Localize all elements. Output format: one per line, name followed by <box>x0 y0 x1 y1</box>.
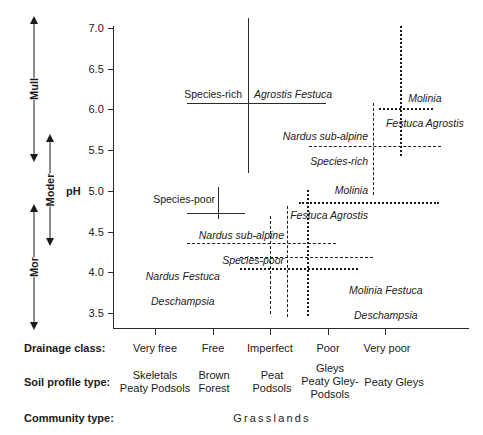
arrow-head-down-icon <box>30 154 38 162</box>
plot-label-line2: Deschampsia <box>354 309 418 321</box>
plot-label-line1: Nardus sub-alpine <box>199 229 284 241</box>
plot-label-line1: Nardus Festuca <box>146 270 220 282</box>
plot-label-nardus-sub-alpine-species-rich: Nardus sub-alpine Species-rich <box>222 118 368 180</box>
y-tick <box>108 69 113 70</box>
plot-label-line2: Species-rich <box>310 155 368 167</box>
plot-label-line1: Nardus sub-alpine <box>283 130 368 142</box>
y-tick <box>108 109 113 110</box>
x-tick <box>270 329 271 335</box>
plot-label-molinia-festuca-deschampsia: Molinia Festuca Deschampsia <box>310 272 450 334</box>
plot-label-species-poor: Species-poor <box>133 193 215 205</box>
series-line-species-poor-horizontal <box>187 213 245 214</box>
arrow-head-down-icon <box>46 238 54 246</box>
y-tick-label: 4.5 <box>68 226 104 238</box>
soil-profile-cell: Peaty Gleys <box>356 376 432 389</box>
row-title-soil-profile-type: Soil profile type: <box>24 376 110 388</box>
series-line-molinia-festuca-deschampsia-horizontal <box>240 257 373 258</box>
plot-label-line2: Festuca Agrostis <box>290 209 368 221</box>
plot-label-line1: Molinia <box>335 184 368 196</box>
plot-label-molinia-festuca-agrostis-upper: Molinia Festuca Agrostis <box>349 80 483 142</box>
soil-profile-cell: Peat Podsols <box>242 369 302 395</box>
plot-label-line2: Festuca Agrostis <box>386 117 464 129</box>
series-line-nardus-sub-alpine-species-poor-vertical <box>287 206 288 317</box>
humus-arrow-moder-label: Moder <box>42 174 58 207</box>
row-title-community-type: Community type: <box>24 412 114 424</box>
series-line-nardus-sub-alpine-species-rich-vertical <box>373 103 374 195</box>
y-tick <box>108 28 113 29</box>
row-title-drainage-class: Drainage class: <box>24 342 105 354</box>
humus-arrow-mor: Mor <box>24 204 44 330</box>
series-line-nardus-festuca-deschampsia-vertical <box>270 216 271 314</box>
plot-label-line2: Deschampsia <box>151 295 215 307</box>
plot-label-agrostis-festuca: Agrostis Festuca <box>254 88 332 100</box>
plot-label-line1: Molinia Festuca <box>349 284 423 296</box>
y-tick <box>108 232 113 233</box>
series-line-species-poor-vertical <box>218 187 219 219</box>
humus-arrow-mor-label: Mor <box>26 257 42 277</box>
y-tick-label: 6.0 <box>68 103 104 115</box>
y-tick-label: 5.0 <box>68 185 104 197</box>
community-type-value: Grasslands <box>233 412 311 424</box>
x-tick <box>213 329 214 335</box>
y-tick-label: 7.0 <box>68 22 104 34</box>
drainage-cell: Very poor <box>350 342 424 355</box>
x-tick <box>155 329 156 335</box>
humus-arrow-mull-label: Mull <box>26 78 42 100</box>
plot-label-nardus-festuca-deschampsia: Nardus Festuca Deschampsia <box>112 258 242 320</box>
soil-profile-cell: Brown Forest <box>184 369 244 395</box>
y-tick <box>108 191 113 192</box>
y-tick-label: 3.5 <box>68 307 104 319</box>
y-tick-label: 4.0 <box>68 266 104 278</box>
plot-label-line1: Molinia <box>408 92 441 104</box>
series-line-nardus-festuca-deschampsia-horizontal <box>240 268 358 270</box>
plot-label-species-rich: Species-rich <box>160 88 242 100</box>
grassland-ph-drainage-figure: Mull Moder Mor pH 7.0 6.5 6.0 5.5 5.0 4.… <box>0 0 483 435</box>
series-line-species-rich-agrostis-festuca-horizontal <box>187 103 326 104</box>
y-tick-label: 5.5 <box>68 144 104 156</box>
y-tick <box>108 150 113 151</box>
arrow-head-down-icon <box>30 322 38 330</box>
y-tick-label: 6.5 <box>68 63 104 75</box>
